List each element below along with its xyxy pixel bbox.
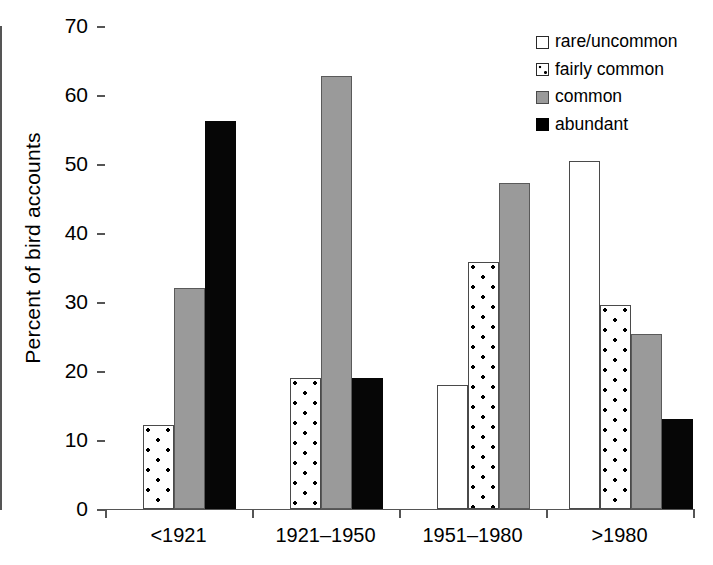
x-tick: [399, 509, 401, 518]
bar-abundant: [205, 121, 236, 509]
y-tick-label: 0: [76, 497, 88, 521]
bar-abundant: [662, 419, 693, 509]
legend-item-label: fairly common: [555, 61, 664, 79]
y-tick: 70: [97, 26, 105, 28]
x-category-label: <1921: [150, 524, 206, 547]
bar-rare-uncommon: [437, 385, 468, 509]
black-swatch: [536, 118, 549, 131]
legend: rare/uncommonfairly commoncommonabundant: [536, 31, 678, 141]
x-tick: [546, 509, 548, 518]
y-tick-label: 30: [65, 290, 88, 314]
y-axis-line: [0, 26, 2, 510]
bar-fairly-common: [468, 262, 499, 509]
white-outline-swatch: [536, 36, 549, 49]
bar-common: [499, 183, 530, 509]
y-tick-label: 60: [65, 83, 88, 107]
y-tick-label: 70: [65, 14, 88, 38]
legend-item-label: rare/uncommon: [555, 33, 678, 51]
x-tick: [693, 509, 695, 518]
y-tick-label: 50: [65, 152, 88, 176]
x-tick: [105, 509, 107, 518]
x-category-label: 1951–1980: [422, 524, 522, 547]
white-dotted-swatch: [536, 63, 549, 76]
y-tick: 50: [97, 164, 105, 166]
bar-group: [105, 26, 252, 509]
y-tick: 0: [97, 509, 105, 511]
x-category-label: 1921–1950: [275, 524, 375, 547]
bar-group: [399, 26, 546, 509]
y-tick: 10: [97, 440, 105, 442]
bar-group: [252, 26, 399, 509]
bar-rare-uncommon: [569, 161, 600, 509]
bar-common: [321, 76, 352, 509]
x-tick: [252, 509, 254, 518]
legend-item: fairly common: [536, 59, 678, 81]
y-tick: 60: [97, 95, 105, 97]
legend-item: rare/uncommon: [536, 31, 678, 53]
gray-swatch: [536, 91, 549, 104]
bar-chart: Percent of bird accounts 010203040506070…: [0, 0, 713, 565]
legend-item-label: abundant: [555, 116, 628, 134]
x-category-label: >1980: [591, 524, 647, 547]
bar-fairly-common: [290, 378, 321, 509]
bar-fairly-common: [600, 305, 631, 509]
bar-abundant: [352, 378, 383, 509]
y-tick: 40: [97, 233, 105, 235]
legend-item: abundant: [536, 114, 678, 136]
y-tick-label: 20: [65, 359, 88, 383]
y-tick: 30: [97, 302, 105, 304]
legend-item: common: [536, 86, 678, 108]
bar-common: [174, 288, 205, 509]
bar-fairly-common: [143, 425, 174, 509]
y-tick: 20: [97, 371, 105, 373]
y-tick-label: 40: [65, 221, 88, 245]
legend-item-label: common: [555, 88, 622, 106]
y-tick-label: 10: [65, 428, 88, 452]
y-axis-title: Percent of bird accounts: [21, 108, 45, 388]
bar-common: [631, 334, 662, 509]
